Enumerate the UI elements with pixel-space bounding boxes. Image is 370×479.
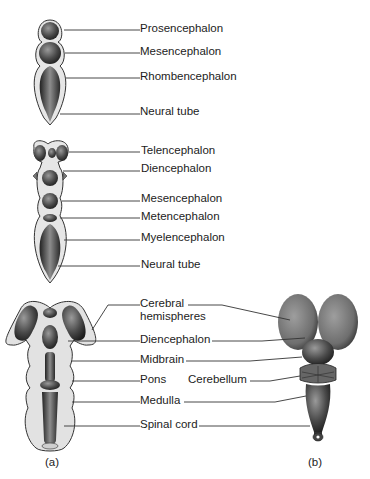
label-neural-tube: Neural tube bbox=[141, 258, 200, 271]
label-midbrain: Midbrain bbox=[140, 353, 184, 366]
brain-development-diagram: Prosencephalon Mesencephalon Rhombenceph… bbox=[0, 0, 370, 479]
label-mesencephalon: Mesencephalon bbox=[140, 45, 221, 58]
stage1-leader-lines bbox=[60, 30, 140, 114]
label-mesencephalon: Mesencephalon bbox=[141, 192, 222, 205]
label-telencephalon: Telencephalon bbox=[141, 144, 215, 157]
label-myelencephalon: Myelencephalon bbox=[141, 231, 225, 244]
label-spinal-cord: Spinal cord bbox=[140, 418, 198, 431]
label-hemispheres: hemispheres bbox=[140, 310, 206, 323]
three-vesicle-brain bbox=[34, 20, 66, 125]
brain-dorsal-view-b bbox=[278, 294, 358, 441]
brain-dorsal-view-a bbox=[6, 301, 96, 451]
label-metencephalon: Metencephalon bbox=[141, 210, 220, 223]
label-medulla: Medulla bbox=[140, 394, 180, 407]
label-pons: Pons bbox=[140, 373, 166, 386]
label-cerebral: Cerebral bbox=[140, 297, 184, 310]
label-neural-tube: Neural tube bbox=[140, 105, 199, 118]
label-diencephalon: Diencephalon bbox=[140, 333, 210, 346]
label-diencephalon: Diencephalon bbox=[141, 162, 211, 175]
stage2-leader-lines bbox=[58, 152, 140, 266]
five-vesicle-brain bbox=[33, 141, 68, 283]
panel-label-a: (a) bbox=[45, 456, 59, 468]
panel-label-b: (b) bbox=[308, 456, 322, 468]
stage3-leader-lines bbox=[64, 305, 310, 426]
label-prosencephalon: Prosencephalon bbox=[140, 22, 223, 35]
label-rhombencephalon: Rhombencephalon bbox=[140, 70, 237, 83]
label-cerebellum: Cerebellum bbox=[188, 373, 247, 386]
